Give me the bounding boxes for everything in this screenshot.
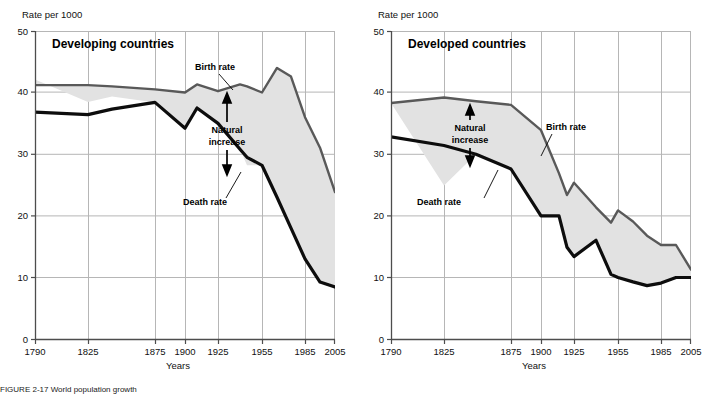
- y-tick-10-right: 10: [373, 272, 384, 283]
- x-tick-1875-right: 1875: [500, 346, 521, 357]
- y-tick-50-right: 50: [373, 26, 384, 37]
- x-tick-1875-left: 1875: [144, 346, 165, 357]
- x-axis-title-right: Years: [522, 360, 546, 371]
- panel-developing: Rate per 1000: [0, 0, 356, 394]
- y-tick-30-left: 30: [17, 148, 28, 159]
- death-rate-label-left: Death rate: [183, 197, 227, 207]
- birth-rate-label-right: Birth rate: [546, 122, 586, 132]
- y-ticks-right: [387, 32, 391, 340]
- chart-svg-developed: 50 40 30 20 10 0 1790 1825 1875 1900 192…: [356, 0, 712, 380]
- y-tick-20-left: 20: [17, 210, 28, 221]
- figure-caption: FIGURE 2-17 World population growth: [0, 385, 713, 394]
- x-tick-1900-left: 1900: [174, 346, 195, 357]
- x-tick-1985-left: 1985: [294, 346, 315, 357]
- natural-increase-label1-left: Natural: [211, 125, 242, 135]
- birth-rate-label-left: Birth rate: [195, 62, 235, 72]
- x-axis-title-left: Years: [166, 360, 190, 371]
- natural-increase-label2-left: increase: [209, 137, 246, 147]
- figure-root: Rate per 1000: [0, 0, 713, 394]
- x-tick-2005-right: 2005: [680, 346, 701, 357]
- x-tick-1825-left: 1825: [77, 346, 98, 357]
- natural-increase-label2-right: increase: [452, 135, 489, 145]
- chart-svg-developing: 50 40 30 20 10 0 1790 1825 1875 1900 192…: [0, 0, 356, 380]
- y-tick-0-left: 0: [23, 334, 28, 345]
- x-tick-2005-left: 2005: [324, 346, 345, 357]
- death-rate-label-right: Death rate: [417, 197, 461, 207]
- y-tick-0-right: 0: [379, 334, 384, 345]
- x-tick-1925-right: 1925: [563, 346, 584, 357]
- x-tick-1925-left: 1925: [207, 346, 228, 357]
- y-tick-40-right: 40: [373, 86, 384, 97]
- panel-title-developing: Developing countries: [52, 37, 174, 51]
- panel-title-developed: Developed countries: [408, 37, 526, 51]
- y-tick-20-right: 20: [373, 210, 384, 221]
- x-tick-1955-left: 1955: [251, 346, 272, 357]
- y-tick-30-right: 30: [373, 148, 384, 159]
- x-tick-1825-right: 1825: [433, 346, 454, 357]
- y-ticks-left: [31, 32, 35, 340]
- x-gridlines-right: [445, 31, 691, 339]
- death-rate-leader-right: [484, 170, 498, 198]
- y-tick-40-left: 40: [17, 86, 28, 97]
- x-tick-1790-left: 1790: [24, 346, 45, 357]
- x-tick-1955-right: 1955: [607, 346, 628, 357]
- y-tick-10-left: 10: [17, 272, 28, 283]
- x-tick-1790-right: 1790: [380, 346, 401, 357]
- x-ticks-right: [392, 340, 691, 345]
- panel-developed: Rate per 1000: [356, 0, 712, 394]
- y-tick-50-left: 50: [17, 26, 28, 37]
- death-rate-leader-left: [226, 172, 241, 198]
- x-ticks-left: [36, 340, 335, 345]
- natural-increase-label1-right: Natural: [454, 123, 485, 133]
- x-tick-1900-right: 1900: [530, 346, 551, 357]
- x-tick-1985-right: 1985: [650, 346, 671, 357]
